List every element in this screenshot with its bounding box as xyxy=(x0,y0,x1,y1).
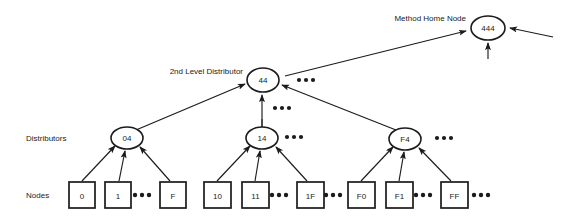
edge-external-right-to-444 xyxy=(510,28,553,37)
leaf-node-F0[interactable]: F0 xyxy=(348,182,375,208)
edge-nodeF1-to-F4 xyxy=(399,152,404,181)
diagram-svg: 0 1 F 10 11 1F xyxy=(0,0,561,219)
nodes-row-label: Nodes xyxy=(26,191,49,200)
ellipsis-14-right xyxy=(285,135,303,139)
ellipsis-44-right xyxy=(297,78,315,82)
diagram-canvas: 0 1 F 10 11 1F xyxy=(0,0,561,219)
leaf-node-F1-label: F1 xyxy=(395,192,405,201)
edge-nodeFF-to-F4 xyxy=(419,148,451,181)
distributor-F4[interactable]: F4 xyxy=(389,128,421,150)
leaf-node-10[interactable]: 10 xyxy=(204,182,231,208)
leaf-node-1[interactable]: 1 xyxy=(105,182,131,208)
edge-nodeF0-to-F4 xyxy=(361,147,393,181)
leaf-node-0[interactable]: 0 xyxy=(69,182,95,208)
leaf-node-group: 0 1 F 10 11 1F xyxy=(69,182,468,208)
distributor-group: 04 14 F4 xyxy=(111,127,421,150)
leaf-node-FF[interactable]: FF xyxy=(441,182,468,208)
leaf-node-11[interactable]: 11 xyxy=(242,182,269,208)
edge-44-to-444 xyxy=(285,31,466,76)
method-home-node-label: 444 xyxy=(481,24,495,33)
edge-group xyxy=(82,28,553,181)
distributor-04-label: 04 xyxy=(123,134,132,143)
leaf-node-FF-label: FF xyxy=(450,192,460,201)
edge-node0-to-04 xyxy=(82,146,115,181)
ellipsis-nodes-F1-FF xyxy=(414,193,432,197)
leaf-node-1F[interactable]: 1F xyxy=(297,182,324,208)
leaf-node-1-label: 1 xyxy=(116,192,121,201)
method-home-node[interactable]: 444 xyxy=(471,16,505,40)
second-level-distributor-caption: 2nd Level Distributor xyxy=(170,67,244,76)
ellipsis-nodes-FF-after xyxy=(472,193,490,197)
ellipsis-group xyxy=(133,78,490,197)
edge-node1F-to-14 xyxy=(276,147,307,181)
distributor-04[interactable]: 04 xyxy=(111,127,143,149)
second-level-distributor-label: 44 xyxy=(259,76,268,85)
distributor-14-label: 14 xyxy=(258,134,267,143)
ellipsis-44-below xyxy=(273,106,291,110)
leaf-node-F[interactable]: F xyxy=(160,182,186,208)
edge-node1-to-04 xyxy=(119,151,125,181)
leaf-node-10-label: 10 xyxy=(213,192,222,201)
edge-04-to-44 xyxy=(136,84,245,130)
edge-F4-to-44 xyxy=(282,85,396,130)
edge-node11-to-14 xyxy=(255,151,260,181)
distributors-row-label: Distributors xyxy=(26,134,66,143)
leaf-node-F0-label: F0 xyxy=(357,192,367,201)
ellipsis-nodes-11-1F xyxy=(270,193,288,197)
edge-nodeF-to-04 xyxy=(140,147,170,181)
ellipsis-nodes-1F-after xyxy=(324,193,342,197)
ellipsis-F4-right xyxy=(435,136,453,140)
leaf-node-F1[interactable]: F1 xyxy=(386,182,413,208)
leaf-node-F-label: F xyxy=(171,192,176,201)
edge-node10-to-14 xyxy=(217,146,250,181)
second-level-distributor-node[interactable]: 44 xyxy=(247,68,279,92)
leaf-node-0-label: 0 xyxy=(80,192,85,201)
ellipsis-nodes-0-F xyxy=(133,193,151,197)
method-home-node-caption: Method Home Node xyxy=(394,14,466,23)
leaf-node-1F-label: 1F xyxy=(306,192,315,201)
leaf-node-11-label: 11 xyxy=(251,192,260,201)
distributor-F4-label: F4 xyxy=(400,135,410,144)
distributor-14[interactable]: 14 xyxy=(246,127,278,149)
